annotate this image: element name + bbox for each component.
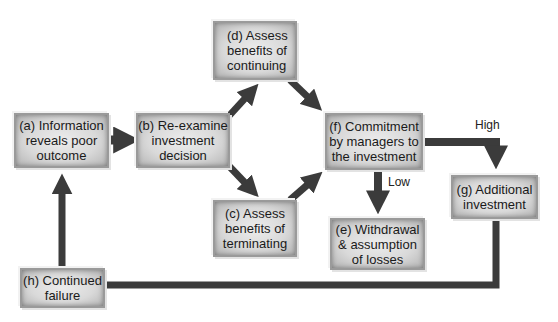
node-e-withdrawal-assumption-of-losses: (e) Withdrawal & assumption of losses [330, 218, 425, 270]
escalation-of-commitment-diagram: (a) Information reveals poor outcome (b)… [0, 0, 558, 322]
arrow-f-to-g [423, 142, 496, 155]
node-f-commitment-by-managers: (f) Commitment by managers to the invest… [325, 113, 423, 170]
node-d-assess-benefits-of-continuing: (d) Assess benefits of continuing [213, 21, 297, 80]
node-b-re-examine-investment-decision: (b) Re-examine investment decision [136, 113, 230, 168]
node-h-continued-failure: (h) Continued failure [20, 268, 105, 308]
arrow-b-to-d [228, 93, 250, 117]
arrow-b-to-c [228, 165, 250, 188]
arrow-c-to-f [290, 180, 313, 200]
node-g-additional-investment: (g) Additional investment [451, 175, 538, 219]
arrow-d-to-f [290, 80, 313, 102]
arrow-g-to-h [105, 218, 496, 285]
edge-label-high: High [475, 118, 500, 132]
edge-label-low: Low [388, 175, 410, 189]
node-c-assess-benefits-of-terminating: (c) Assess benefits of terminating [213, 200, 297, 257]
node-a-information-reveals-poor-outcome: (a) Information reveals poor outcome [14, 113, 109, 168]
